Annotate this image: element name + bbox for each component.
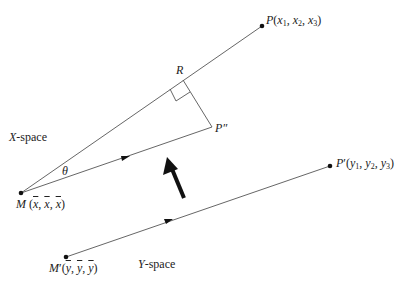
line-M-P-double-prime [21, 127, 212, 193]
line-R-P-double-prime [183, 80, 212, 127]
mapping-arrow-shaft [172, 169, 184, 198]
point-P [260, 24, 265, 29]
right-angle-marker [170, 89, 190, 101]
point-M [19, 191, 24, 196]
label-P-double-prime: P″ [215, 122, 227, 134]
line-M-P [21, 26, 262, 193]
label-M: M (x, x, x) [16, 198, 65, 210]
line-M-prime-P-prime [66, 166, 330, 257]
label-x-space: X-space [9, 131, 47, 143]
label-theta: θ [62, 165, 68, 177]
label-P: P(x1, x2, x3) [266, 14, 321, 26]
label-P-prime: P′(y1, y2, y3) [336, 157, 394, 169]
direction-arrowhead-icon [121, 156, 130, 161]
direction-arrowhead-icon [164, 219, 173, 224]
label-R: R [176, 64, 183, 76]
point-P-prime [328, 164, 333, 169]
label-y-space: Y-space [138, 258, 175, 270]
label-M-prime: M′(y, y, y) [49, 262, 98, 274]
geometry-diagram [0, 0, 402, 285]
point-M-prime [64, 255, 69, 260]
mapping-arrow-head-icon [163, 157, 178, 175]
